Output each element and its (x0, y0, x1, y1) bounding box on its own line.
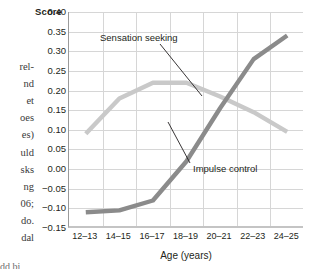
y-tick-label: 0.20 (30, 86, 66, 96)
x-tick-label: 18–19 (173, 232, 198, 241)
y-tick-label: 0.30 (30, 47, 66, 57)
x-tick-label: 14–15 (106, 232, 131, 241)
annotation-impulse-control: Impulse control (193, 164, 257, 174)
x-tick-label: 16–17 (139, 232, 164, 241)
x-axis-title: Age (years) (68, 250, 304, 261)
y-tick-label: 0.15 (30, 105, 66, 115)
x-axis-tick-labels: 12–1314–1516–1718–1920–2122–2324–25 (0, 232, 312, 248)
series-line-impulse-control (86, 36, 287, 213)
y-tick-label: 0.35 (30, 27, 66, 37)
x-tick-label: 24–25 (274, 232, 299, 241)
clipped-caption-sliver: dd bi (0, 262, 100, 269)
series-lines (69, 12, 304, 228)
x-tick-label: 22–23 (240, 232, 265, 241)
y-tick-label: 0.00 (30, 164, 66, 174)
annotation-sensation-seeking: Sensation seeking (100, 33, 178, 43)
y-tick-label: −0.05 (30, 184, 66, 194)
y-tick-label: 0.10 (30, 125, 66, 135)
y-tick-label: −0.10 (30, 204, 66, 214)
y-axis-tick-labels: 0.400.350.300.250.200.150.100.050.00−0.0… (30, 0, 66, 269)
series-line-sensation-seeking (86, 83, 287, 134)
y-tick-label: 0.25 (30, 66, 66, 76)
plot-area (68, 12, 303, 228)
y-tick-label: 0.40 (30, 7, 66, 17)
x-tick-label: 12–13 (72, 232, 97, 241)
x-tick-label: 20–21 (207, 232, 232, 241)
y-tick-label: 0.05 (30, 145, 66, 155)
